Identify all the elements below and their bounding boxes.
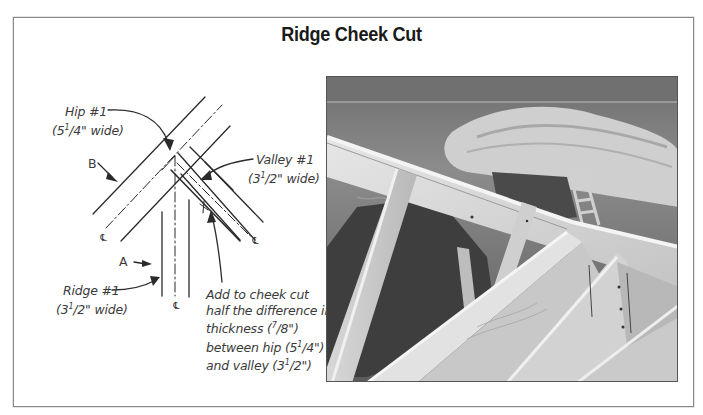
ridge-width: (31/2" wide) <box>56 299 128 318</box>
note-line-3: thickness (7/8") <box>206 318 332 337</box>
valley-leader-arrow <box>206 159 253 176</box>
hip-label: Hip #1 <box>65 104 107 120</box>
photo-illustration <box>327 77 678 382</box>
note-line-5: and valley (31/2") <box>206 355 332 374</box>
hip-centerline-symbol: ℄ <box>99 230 108 246</box>
cheek-cut-note: Add to cheek cut half the difference in … <box>206 287 332 374</box>
hip-edge-outer <box>93 97 205 214</box>
valley-edge-lower <box>181 174 240 240</box>
note-line-4: between hip (51/4") <box>206 337 332 356</box>
note-line-1: Add to cheek cut <box>206 287 332 303</box>
valley-cheek-edge <box>171 170 240 241</box>
valley-name: Valley #1 <box>256 152 314 167</box>
hip-width: (51/4" wide) <box>52 120 124 139</box>
note-leader-arrow <box>212 216 222 282</box>
ridge-centerline-symbol: ℄ <box>172 298 181 314</box>
valley-centerline-symbol: ℄ <box>251 233 260 249</box>
hip-name: Hip #1 <box>65 104 107 119</box>
point-b-label: B <box>88 156 96 172</box>
point-a-label: A <box>119 254 127 270</box>
valley-label: Valley #1 <box>256 152 314 168</box>
ridge-cheek-cut-diagram: ℄ ℄ ℄ Hip #1 (51/4" wide) B Valley #1 (3… <box>0 0 330 415</box>
ridge-name: Ridge #1 <box>63 283 120 298</box>
note-line-2: half the difference in <box>206 303 332 319</box>
valley-width: (31/2" wide) <box>248 168 320 187</box>
roof-framing-photo <box>326 76 678 382</box>
ridge-label: Ridge #1 <box>63 283 120 299</box>
